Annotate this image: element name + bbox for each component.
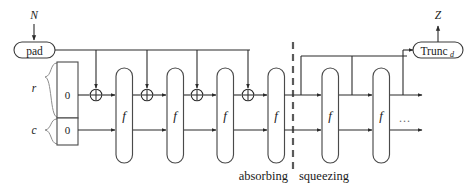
rate-brace	[45, 63, 57, 117]
trunc-block-label: Trunc	[420, 45, 447, 57]
xor-gate-1	[90, 89, 102, 101]
trunc-block[interactable]: Trunc d	[413, 42, 463, 59]
state-braces-group: r c	[31, 63, 57, 144]
permutation-block-6[interactable]: f	[373, 68, 390, 163]
permutation-block-3[interactable]: f	[217, 68, 234, 163]
output-bus-group	[301, 50, 413, 95]
xor-gate-2	[141, 89, 153, 101]
pad-block-label: pad	[26, 45, 43, 58]
permutation-block-5[interactable]: f	[322, 68, 339, 163]
message-input-label: N	[29, 9, 39, 21]
xor-gate-3	[191, 89, 203, 101]
permutation-block-2[interactable]: f	[167, 68, 184, 163]
pad-block[interactable]: pad	[14, 42, 55, 58]
capacity-brace	[45, 119, 57, 144]
output-group: Z	[435, 9, 442, 42]
capacity-label: c	[31, 124, 36, 136]
initial-state-rate-value: 0	[65, 89, 71, 101]
absorbing-phase-label: absorbing	[239, 169, 289, 183]
message-input-group: N	[29, 9, 39, 40]
continuation-ellipsis: ...	[399, 111, 411, 125]
diagram-canvas: N pad r c 0	[0, 0, 471, 196]
permutation-block-4[interactable]: f	[268, 68, 285, 163]
xor-gate-4	[242, 89, 254, 101]
initial-state-box: 0 0	[57, 62, 78, 145]
squeezing-phase-label: squeezing	[299, 169, 350, 183]
sponge-construction-diagram: N pad r c 0	[0, 0, 471, 196]
permutation-block-1[interactable]: f	[116, 68, 133, 163]
output-label: Z	[435, 9, 442, 21]
initial-state-capacity-value: 0	[65, 124, 71, 136]
rate-label: r	[32, 82, 37, 94]
